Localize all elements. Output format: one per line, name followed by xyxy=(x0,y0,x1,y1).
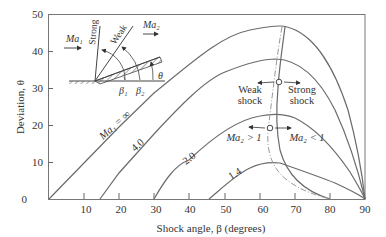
curve-labels: Ma₁ = ∞ 4.0 2.0 1.4 xyxy=(96,108,244,181)
oblique-shock-chart: 50 40 30 20 10 0 Deviation, θ 10 20 30 4… xyxy=(0,0,386,237)
x-tick-70: 70 xyxy=(291,203,303,215)
inset-weak: Weak xyxy=(108,23,129,46)
ma2-marker xyxy=(249,125,291,131)
inset-theta: θ xyxy=(158,70,163,81)
ma2-gt-1-label: Ma₂ > 1 xyxy=(225,132,261,143)
x-tick-20: 20 xyxy=(116,203,128,215)
x-axis-label: Shock angle, β (degrees) xyxy=(157,222,266,235)
curves xyxy=(49,26,365,199)
ma2-lt-1-label: Ma₂ < 1 xyxy=(288,132,324,143)
x-tick-90: 90 xyxy=(360,203,372,215)
inset-beta2: β₂ xyxy=(135,85,145,96)
x-tick-60: 60 xyxy=(258,203,270,215)
strong-label: Strong xyxy=(288,84,317,95)
y-tick-50: 50 xyxy=(32,8,44,20)
inset-strong: Strong xyxy=(87,19,99,45)
y-tick-20: 20 xyxy=(32,119,44,131)
x-tick-10: 10 xyxy=(81,203,93,215)
y-tick-0: 0 xyxy=(22,193,28,205)
label-ma-4: 4.0 xyxy=(129,137,146,154)
label-ma-inf: Ma₁ = ∞ xyxy=(96,108,132,142)
weak-shock-label: shock xyxy=(238,95,263,106)
y-tick-10: 10 xyxy=(32,156,44,168)
inset-diagram: Ma₁ Ma₂ Strong Weak β₁ β₂ θ xyxy=(64,19,165,96)
theta-max-locus xyxy=(277,27,330,199)
inset-ma2: Ma₂ xyxy=(142,19,160,30)
inset-beta1: β₁ xyxy=(118,85,127,96)
weak-label: Weak xyxy=(238,84,262,95)
x-tick-40: 40 xyxy=(185,203,197,215)
x-tick-50: 50 xyxy=(221,203,233,215)
y-tick-30: 30 xyxy=(32,82,44,94)
inset-ma1: Ma₁ xyxy=(65,33,83,44)
y-axis-label: Deviation, θ xyxy=(14,80,26,134)
y-axis: 50 40 30 20 10 0 Deviation, θ xyxy=(14,8,53,205)
curve-ma-inf xyxy=(49,26,365,199)
x-tick-30: 30 xyxy=(151,203,163,215)
label-ma-1-4: 1.4 xyxy=(226,165,244,182)
strong-shock-label: shock xyxy=(290,95,315,106)
x-tick-80: 80 xyxy=(325,203,337,215)
region-labels: Weak shock Strong shock Ma₂ > 1 Ma₂ < 1 xyxy=(225,84,324,143)
y-tick-40: 40 xyxy=(32,45,44,57)
label-ma-2: 2.0 xyxy=(180,150,197,167)
